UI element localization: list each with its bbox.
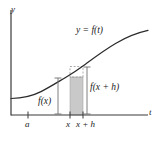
tick-label-a: a — [25, 120, 30, 129]
calculus-figure: y t y = f(t) f(x) f(x + h) a x x + h — [0, 0, 160, 141]
tick-label-x-plus-h: x + h — [76, 120, 95, 129]
tick-label-x: x — [66, 120, 70, 129]
t-axis-label: t — [149, 108, 152, 117]
fx-plus-h-measure-label: f(x + h) — [90, 83, 119, 93]
shaded-strip — [70, 77, 83, 115]
fx-measure-label: f(x) — [38, 97, 51, 107]
y-axis-label: y — [11, 5, 15, 14]
curve-equation-label: y = f(t) — [76, 26, 103, 36]
